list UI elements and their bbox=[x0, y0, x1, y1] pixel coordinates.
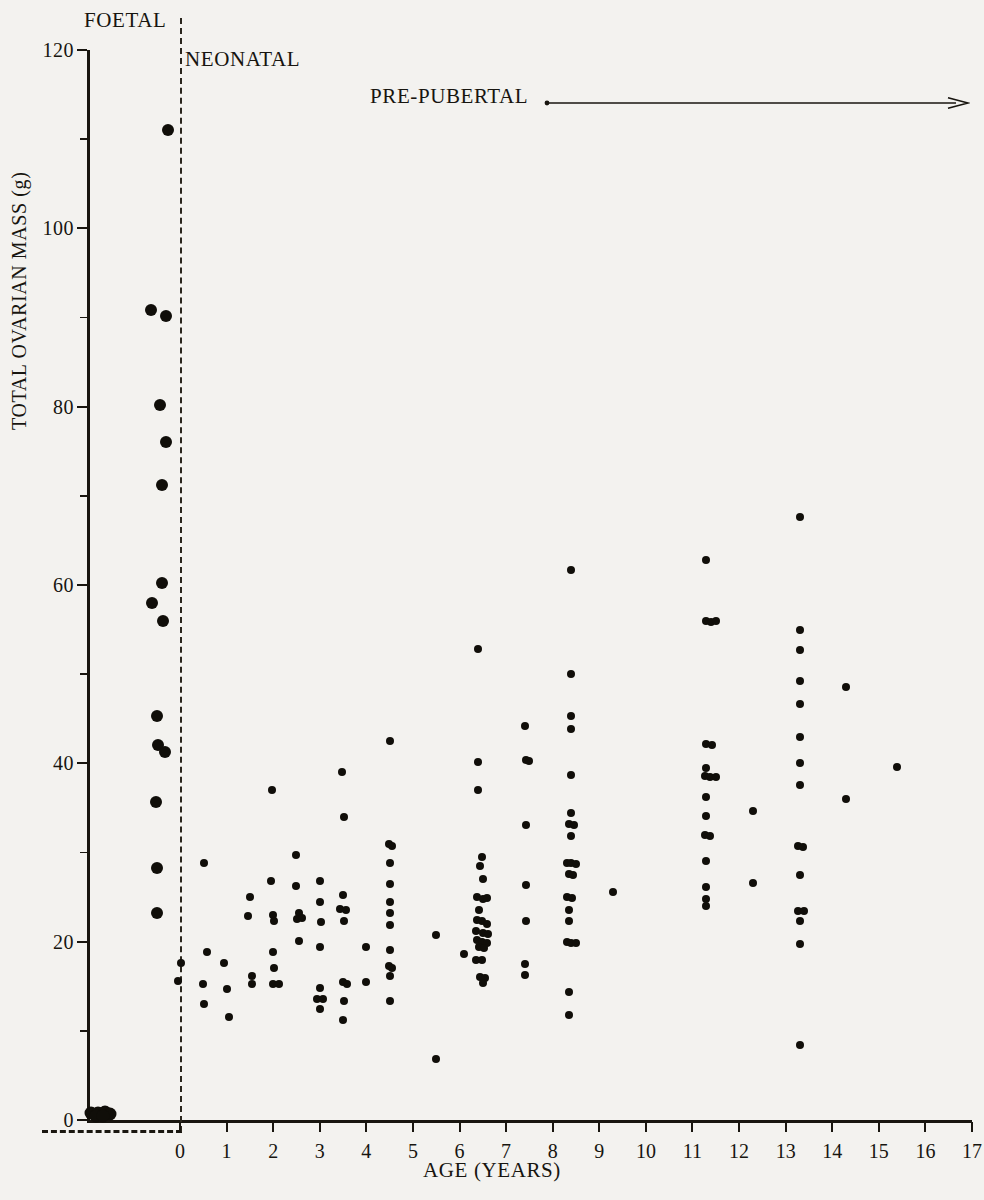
data-point-pre-pubertal bbox=[796, 759, 804, 767]
data-point-pre-pubertal bbox=[567, 670, 575, 678]
data-point-pre-pubertal bbox=[565, 1011, 573, 1019]
data-point-pre-pubertal bbox=[177, 959, 185, 967]
y-tick bbox=[77, 406, 87, 408]
x-tick bbox=[878, 1122, 880, 1132]
y-tick bbox=[77, 1119, 87, 1121]
data-point-pre-pubertal bbox=[799, 843, 807, 851]
x-tick bbox=[738, 1122, 740, 1132]
y-tick-label: 120 bbox=[43, 39, 75, 62]
data-point-neonatal bbox=[146, 597, 158, 609]
data-point-pre-pubertal bbox=[572, 860, 580, 868]
data-point-neonatal bbox=[160, 436, 172, 448]
data-point-pre-pubertal bbox=[796, 677, 804, 685]
data-point-pre-pubertal bbox=[708, 741, 716, 749]
data-point-pre-pubertal bbox=[200, 1000, 208, 1008]
data-point-pre-pubertal bbox=[220, 959, 228, 967]
y-tick-label: 40 bbox=[53, 752, 74, 775]
y-tick bbox=[77, 584, 87, 586]
data-point-pre-pubertal bbox=[796, 940, 804, 948]
data-point-pre-pubertal bbox=[796, 781, 804, 789]
x-tick bbox=[505, 1122, 507, 1132]
data-point-pre-pubertal bbox=[567, 771, 575, 779]
data-point-pre-pubertal bbox=[842, 683, 850, 691]
data-point-pre-pubertal bbox=[474, 786, 482, 794]
data-point-pre-pubertal bbox=[386, 909, 394, 917]
data-point-pre-pubertal bbox=[796, 733, 804, 741]
data-point-neonatal bbox=[145, 304, 157, 316]
data-point-pre-pubertal bbox=[386, 898, 394, 906]
data-point-pre-pubertal bbox=[567, 712, 575, 720]
data-point-pre-pubertal bbox=[295, 937, 303, 945]
data-point-foetal bbox=[96, 1109, 109, 1122]
data-point-neonatal bbox=[154, 399, 166, 411]
data-point-pre-pubertal bbox=[702, 764, 710, 772]
data-point-pre-pubertal bbox=[702, 556, 710, 564]
data-point-pre-pubertal bbox=[316, 1005, 324, 1013]
x-tick bbox=[319, 1122, 321, 1132]
y-axis-line bbox=[87, 50, 90, 1122]
data-point-pre-pubertal bbox=[568, 894, 576, 902]
data-point-pre-pubertal bbox=[521, 960, 529, 968]
data-point-pre-pubertal bbox=[362, 943, 370, 951]
data-point-pre-pubertal bbox=[702, 883, 710, 891]
y-minor-tick bbox=[80, 852, 87, 854]
x-axis-title: AGE (YEARS) bbox=[0, 1158, 984, 1183]
data-point-pre-pubertal bbox=[316, 877, 324, 885]
data-point-pre-pubertal bbox=[567, 566, 575, 574]
data-point-pre-pubertal bbox=[203, 948, 211, 956]
data-point-pre-pubertal bbox=[269, 948, 277, 956]
data-point-pre-pubertal bbox=[474, 758, 482, 766]
data-point-pre-pubertal bbox=[223, 985, 231, 993]
data-point-pre-pubertal bbox=[476, 862, 484, 870]
y-tick bbox=[77, 941, 87, 943]
data-point-pre-pubertal bbox=[522, 881, 530, 889]
data-point-pre-pubertal bbox=[200, 859, 208, 867]
x-tick bbox=[272, 1122, 274, 1132]
data-point-neonatal bbox=[156, 479, 168, 491]
data-point-pre-pubertal bbox=[244, 912, 252, 920]
data-point-pre-pubertal bbox=[572, 939, 580, 947]
data-point-pre-pubertal bbox=[480, 944, 488, 952]
data-point-pre-pubertal bbox=[174, 977, 182, 985]
data-point-pre-pubertal bbox=[842, 795, 850, 803]
data-point-pre-pubertal bbox=[706, 832, 714, 840]
x-tick bbox=[226, 1122, 228, 1132]
data-point-pre-pubertal bbox=[525, 757, 533, 765]
data-point-pre-pubertal bbox=[268, 786, 276, 794]
data-point-pre-pubertal bbox=[796, 513, 804, 521]
y-minor-tick bbox=[80, 138, 87, 140]
data-point-pre-pubertal bbox=[712, 773, 720, 781]
data-point-neonatal bbox=[160, 310, 172, 322]
data-point-pre-pubertal bbox=[893, 763, 901, 771]
data-point-pre-pubertal bbox=[292, 882, 300, 890]
data-point-neonatal bbox=[156, 577, 168, 589]
data-point-pre-pubertal bbox=[292, 851, 300, 859]
plot-area: 020406080100120 012345678910111213141516… bbox=[87, 50, 972, 1122]
data-point-pre-pubertal bbox=[702, 793, 710, 801]
data-point-pre-pubertal bbox=[521, 722, 529, 730]
data-point-pre-pubertal bbox=[298, 914, 306, 922]
data-point-pre-pubertal bbox=[702, 857, 710, 865]
data-point-pre-pubertal bbox=[712, 617, 720, 625]
x-tick bbox=[459, 1122, 461, 1132]
x-tick bbox=[971, 1122, 973, 1132]
data-point-pre-pubertal bbox=[565, 906, 573, 914]
data-point-pre-pubertal bbox=[522, 821, 530, 829]
data-point-pre-pubertal bbox=[460, 950, 468, 958]
data-point-neonatal bbox=[151, 710, 163, 722]
data-point-pre-pubertal bbox=[316, 984, 324, 992]
data-point-pre-pubertal bbox=[479, 979, 487, 987]
ovarian-mass-scatter-figure: FOETAL NEONATAL PRE-PUBERTAL TOTAL OVARI… bbox=[0, 0, 984, 1200]
data-point-pre-pubertal bbox=[796, 917, 804, 925]
data-point-pre-pubertal bbox=[340, 997, 348, 1005]
data-point-pre-pubertal bbox=[267, 877, 275, 885]
data-point-neonatal bbox=[151, 907, 163, 919]
data-point-pre-pubertal bbox=[522, 917, 530, 925]
data-point-pre-pubertal bbox=[319, 995, 327, 1003]
x-tick bbox=[645, 1122, 647, 1132]
data-point-pre-pubertal bbox=[702, 902, 710, 910]
x-tick bbox=[785, 1122, 787, 1132]
data-point-pre-pubertal bbox=[479, 875, 487, 883]
data-point-pre-pubertal bbox=[432, 1055, 440, 1063]
data-point-neonatal bbox=[150, 796, 162, 808]
